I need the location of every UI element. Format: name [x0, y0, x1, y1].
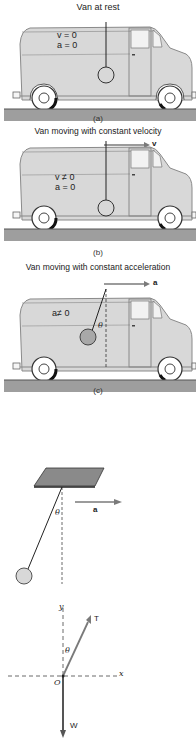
panel-a-label: (a)	[0, 114, 196, 123]
equation-a-b: a = 0	[55, 182, 75, 192]
van-constant-acceleration-illustration	[0, 285, 196, 397]
tension-label: T	[94, 614, 99, 623]
angle-theta-fbd: θ	[65, 646, 70, 655]
equation-a-c: a≠ 0	[52, 308, 69, 318]
panel-a-title: Van at rest	[0, 2, 196, 12]
van-constant-velocity-illustration	[0, 134, 196, 246]
panel-c-label: (c)	[0, 386, 196, 395]
pendulum-bob	[16, 568, 32, 584]
x-axis-label: x	[119, 669, 124, 678]
pendulum-diagram	[0, 450, 196, 600]
equation-a-a: a = 0	[57, 40, 77, 50]
equation-v-a: v = 0	[57, 30, 77, 40]
angle-theta-van: θ	[98, 321, 103, 330]
origin-label: O	[54, 678, 61, 687]
van-at-rest-illustration	[0, 14, 196, 126]
y-axis-label: y	[59, 602, 64, 611]
pendulum-accel-label: a	[93, 505, 97, 514]
panel-c-title: Van moving with constant acceleration	[0, 262, 196, 272]
ceiling-plate	[34, 468, 104, 486]
weight-label: W	[70, 721, 78, 730]
equation-v-b: v ≠ 0	[55, 172, 74, 182]
panel-b-label: (b)	[0, 248, 196, 257]
angle-theta-pendulum: θ	[55, 508, 60, 517]
